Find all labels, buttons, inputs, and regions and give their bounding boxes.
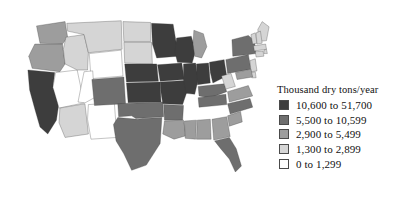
state-wi: Wisconsin	[175, 36, 196, 63]
state-ok: Oklahoma	[118, 102, 164, 118]
state-mn: Minnesota	[152, 23, 179, 58]
state-sd: South Dakota	[124, 42, 153, 64]
map-legend: Thousand dry tons/year 10,600 to 51,7005…	[276, 84, 404, 171]
state-sc: South Carolina	[228, 112, 243, 127]
legend-swatch	[279, 129, 289, 139]
state-nv: Nevada	[53, 70, 84, 108]
states-layer: WashingtonOregonCaliforniaNevadaIdahoMon…	[28, 21, 269, 172]
legend-item: 1,300 to 2,899	[276, 142, 404, 157]
state-fl: Florida	[215, 137, 242, 172]
state-la: Louisiana	[163, 120, 186, 139]
legend-item: 0 to 1,299	[276, 156, 404, 171]
state-or: Oregon	[29, 44, 65, 72]
state-mo: Missouri	[160, 80, 187, 104]
legend-label: 5,500 to 10,599	[296, 114, 367, 126]
state-ga: Georgia	[212, 117, 230, 140]
legend-swatch	[279, 115, 289, 125]
legend-title: Thousand dry tons/year	[276, 84, 404, 95]
legend-rows: 10,600 to 51,7005,500 to 10,5992,900 to …	[276, 98, 404, 171]
state-wy: Wyoming	[89, 50, 123, 79]
legend-label: 0 to 1,299	[296, 158, 341, 170]
state-ks: Kansas	[126, 82, 161, 103]
legend-item: 5,500 to 10,599	[276, 113, 404, 128]
state-al: Alabama	[196, 119, 211, 139]
state-ct: Connecticut	[255, 51, 264, 57]
state-nd: North Dakota	[123, 22, 151, 42]
legend-swatch	[279, 100, 289, 110]
state-co: Colorado	[92, 77, 126, 106]
state-ri: Rhode Island	[264, 49, 267, 53]
state-in: Indiana	[196, 63, 210, 85]
legend-item: 10,600 to 51,700	[276, 98, 404, 113]
state-il: Illinois	[183, 63, 198, 94]
choropleth-figure: WashingtonOregonCaliforniaNevadaIdahoMon…	[0, 0, 405, 204]
us-states-map: WashingtonOregonCaliforniaNevadaIdahoMon…	[8, 6, 276, 198]
legend-label: 2,900 to 5,499	[296, 128, 361, 140]
legend-label: 10,600 to 51,700	[296, 99, 372, 111]
state-az: Arizona	[59, 104, 88, 138]
state-nm: New Mexico	[88, 103, 117, 139]
state-ne: Nebraska	[125, 64, 159, 82]
state-ia: Iowa	[158, 63, 185, 81]
state-ms: Mississippi	[184, 120, 196, 139]
state-mi: Michigan	[193, 30, 207, 58]
legend-swatch	[279, 144, 289, 154]
legend-swatch	[279, 159, 289, 169]
state-tx: Texas	[113, 118, 161, 171]
legend-label: 1,300 to 2,899	[296, 143, 361, 155]
state-ar: Arkansas	[164, 105, 184, 121]
legend-item: 2,900 to 5,499	[276, 127, 404, 142]
state-id: Idaho	[63, 35, 88, 70]
state-wa: Washington	[37, 22, 68, 44]
